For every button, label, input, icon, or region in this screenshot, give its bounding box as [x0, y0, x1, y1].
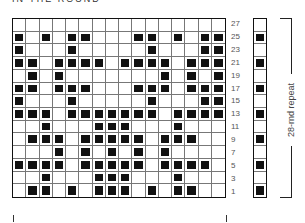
chart-cell — [212, 159, 225, 172]
chart-cell — [172, 146, 185, 159]
chart-cell — [146, 83, 159, 96]
chart-cell — [146, 184, 159, 197]
chart-cell — [13, 108, 26, 121]
repeat-cell — [254, 133, 266, 146]
chart-cell — [40, 121, 53, 134]
chart-cell — [79, 146, 92, 159]
chart-cell — [13, 83, 26, 96]
chart-cell — [106, 184, 119, 197]
chart-cell — [13, 184, 26, 197]
chart-cell — [40, 95, 53, 108]
chart-cell — [40, 19, 53, 32]
chart-cell — [40, 44, 53, 57]
chart-cell — [40, 57, 53, 70]
row-label: 17 — [231, 83, 249, 96]
chart-cell — [66, 133, 79, 146]
chart-cell — [185, 146, 198, 159]
chart-cell — [13, 57, 26, 70]
repeat-label: 28-rnd repeat — [286, 83, 296, 137]
chart-cell — [172, 121, 185, 134]
chart-cell — [199, 95, 212, 108]
chart-cell — [185, 121, 198, 134]
repeat-cell — [254, 172, 266, 185]
chart-cell — [212, 184, 225, 197]
repeat-cell — [254, 44, 266, 57]
chart-cell — [199, 172, 212, 185]
chart-cell — [212, 146, 225, 159]
chart-cell — [119, 32, 132, 45]
chart-cell — [146, 19, 159, 32]
row-label: 3 — [231, 173, 249, 186]
chart-cell — [79, 95, 92, 108]
knitting-chart-grid — [12, 18, 226, 198]
chart-cell — [79, 121, 92, 134]
chart-cell — [119, 133, 132, 146]
chart-cell — [172, 133, 185, 146]
chart-cell — [199, 184, 212, 197]
chart-cell — [26, 121, 39, 134]
row-label: 1 — [231, 186, 249, 199]
chart-cell — [93, 57, 106, 70]
chart-cell — [26, 57, 39, 70]
row-label: 15 — [231, 95, 249, 108]
chart-cell — [53, 57, 66, 70]
chart-cell — [79, 19, 92, 32]
chart-cell — [119, 159, 132, 172]
chart-cell — [159, 121, 172, 134]
chart-cell — [132, 57, 145, 70]
chart-cell — [106, 133, 119, 146]
chart-cell — [159, 83, 172, 96]
chart-cell — [159, 108, 172, 121]
chart-cell — [66, 57, 79, 70]
chart-cell — [53, 121, 66, 134]
chart-cell — [159, 95, 172, 108]
chart-cell — [53, 44, 66, 57]
chart-cell — [212, 44, 225, 57]
chart-cell — [212, 133, 225, 146]
chart-cell — [146, 57, 159, 70]
chart-cell — [159, 57, 172, 70]
chart-cell — [66, 32, 79, 45]
chart-cell — [93, 32, 106, 45]
chart-cell — [40, 172, 53, 185]
chart-cell — [185, 184, 198, 197]
chart-cell — [199, 44, 212, 57]
chart-cell — [185, 133, 198, 146]
chart-cell — [106, 159, 119, 172]
repeat-column — [253, 18, 267, 198]
chart-cell — [132, 95, 145, 108]
chart-cell — [106, 19, 119, 32]
chart-cell — [53, 159, 66, 172]
chart-cell — [26, 133, 39, 146]
chart-cell — [13, 44, 26, 57]
chart-cell — [40, 32, 53, 45]
chart-cell — [106, 44, 119, 57]
chart-cell — [26, 146, 39, 159]
chart-cell — [79, 184, 92, 197]
chart-cell — [172, 159, 185, 172]
repeat-cell — [254, 95, 266, 108]
row-label: 9 — [231, 134, 249, 147]
chart-cell — [93, 184, 106, 197]
chart-cell — [106, 121, 119, 134]
chart-cell — [199, 32, 212, 45]
chart-cell — [66, 159, 79, 172]
chart-cell — [185, 95, 198, 108]
chart-cell — [13, 95, 26, 108]
chart-cell — [26, 44, 39, 57]
chart-cell — [53, 108, 66, 121]
repeat-bracket-line — [291, 146, 292, 198]
stitch-bracket-tick-left — [13, 215, 14, 222]
chart-cell — [26, 19, 39, 32]
chart-cell — [172, 57, 185, 70]
chart-cell — [13, 133, 26, 146]
chart-cell — [132, 83, 145, 96]
repeat-bracket-line — [291, 18, 292, 74]
chart-cell — [106, 146, 119, 159]
repeat-bracket-bottom — [280, 197, 292, 198]
chart-cell — [13, 146, 26, 159]
chart-cell — [106, 32, 119, 45]
chart-cell — [119, 95, 132, 108]
chart-cell — [199, 146, 212, 159]
repeat-cell — [254, 146, 266, 159]
